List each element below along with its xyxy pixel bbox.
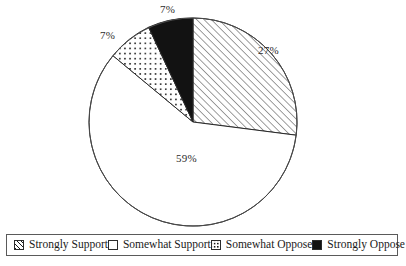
legend-label-strongly-oppose: Strongly Oppose (327, 239, 405, 251)
legend-item-strongly-oppose: Strongly Oppose (312, 239, 405, 251)
chart-legend: Strongly Support Somewhat Support Somewh… (6, 234, 398, 256)
empty-swatch-icon (108, 240, 118, 250)
legend-item-somewhat-oppose: Somewhat Oppose (211, 239, 313, 251)
solid-swatch-icon (312, 240, 322, 250)
slice-value-strongly-oppose: 7% (160, 3, 175, 15)
legend-label-somewhat-support: Somewhat Support (123, 239, 211, 251)
legend-label-strongly-support: Strongly Support (29, 239, 108, 251)
hatch-swatch-icon (14, 240, 24, 250)
legend-item-strongly-support: Strongly Support (14, 239, 108, 251)
legend-item-somewhat-support: Somewhat Support (108, 239, 211, 251)
dotted-swatch-icon (211, 240, 221, 250)
slice-strongly-support (193, 18, 297, 135)
legend-label-somewhat-oppose: Somewhat Oppose (226, 239, 313, 251)
slice-value-strongly-support: 27% (258, 44, 279, 56)
pie-chart-canvas (0, 0, 406, 232)
slice-value-somewhat-support: 59% (176, 152, 197, 164)
pie-chart: 27% 59% 7% 7% (0, 0, 406, 232)
slice-value-somewhat-oppose: 7% (100, 29, 115, 41)
